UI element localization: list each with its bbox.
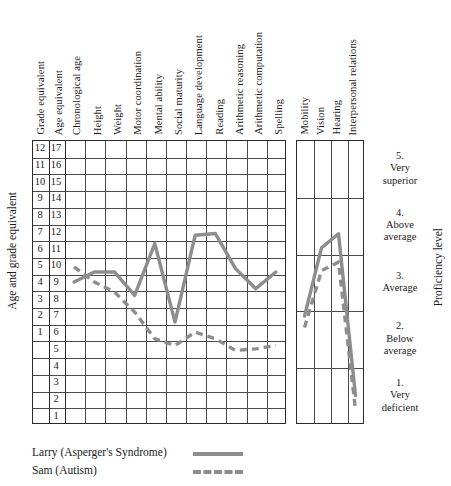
legend-entry-sam-label: Sam (Autism) [32,464,97,476]
legend-swatch-sam [193,470,243,474]
series-overlay [0,0,451,486]
series-line-larry [74,234,276,323]
series-line-larry [305,234,356,396]
chart-figure: Grade equivalent Age equivalent Chronolo… [0,0,451,486]
legend-entry-larry-label: Larry (Asperger's Syndrome) [32,446,167,458]
legend-swatch-larry [193,452,243,456]
